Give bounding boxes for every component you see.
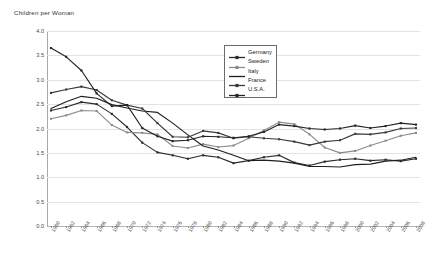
data-point-marker xyxy=(202,154,204,156)
chart-title: Children per Woman xyxy=(14,9,74,16)
data-point-marker xyxy=(80,86,82,88)
data-point-marker xyxy=(324,146,326,148)
data-point-marker xyxy=(172,154,174,156)
legend-label: Italy xyxy=(248,69,259,75)
legend-swatch-icon xyxy=(228,76,246,85)
data-point-marker xyxy=(217,132,219,134)
legend-item-germany[interactable]: Germany xyxy=(228,48,272,57)
data-point-marker xyxy=(308,133,310,135)
data-point-marker xyxy=(385,159,387,161)
data-point-marker xyxy=(172,136,174,138)
data-point-marker xyxy=(156,133,158,135)
legend-swatch-icon xyxy=(228,67,246,76)
data-point-marker xyxy=(278,154,280,156)
data-point-marker xyxy=(187,139,189,141)
data-point-marker xyxy=(141,127,143,129)
data-point-marker xyxy=(339,127,341,129)
data-point-marker xyxy=(324,141,326,143)
data-point-marker xyxy=(293,141,295,143)
data-point-marker xyxy=(308,144,310,146)
legend-item-sweden[interactable]: Sweden xyxy=(228,57,272,66)
data-point-marker xyxy=(385,140,387,142)
data-point-marker xyxy=(263,156,265,158)
data-point-marker xyxy=(50,109,52,111)
data-point-marker xyxy=(126,104,128,106)
data-point-marker xyxy=(385,131,387,133)
data-point-marker xyxy=(324,128,326,130)
data-point-marker xyxy=(50,47,52,49)
data-point-marker xyxy=(232,145,234,147)
data-point-marker xyxy=(172,140,174,142)
data-point-marker xyxy=(80,69,82,71)
data-point-marker xyxy=(96,103,98,105)
data-point-marker xyxy=(339,159,341,161)
data-point-marker xyxy=(400,127,402,129)
y-axis-tick-label: 0.5 xyxy=(4,199,44,205)
legend-item-france[interactable]: France xyxy=(228,76,272,85)
data-point-marker xyxy=(354,133,356,135)
data-point-marker xyxy=(278,124,280,126)
data-point-marker xyxy=(369,127,371,129)
data-point-marker xyxy=(111,105,113,107)
legend-label: Germany xyxy=(248,50,272,56)
legend-item-u-s-a[interactable]: U.S.A. xyxy=(228,86,272,95)
legend-label: U.S.A. xyxy=(248,87,265,93)
data-point-marker xyxy=(156,122,158,124)
data-point-marker xyxy=(80,101,82,103)
data-point-marker xyxy=(217,146,219,148)
data-point-marker xyxy=(156,135,158,137)
x-axis: 1960196219641966196819701972197419761978… xyxy=(47,226,420,271)
data-point-marker xyxy=(293,125,295,127)
legend-swatch-icon xyxy=(228,86,246,95)
data-point-marker xyxy=(80,109,82,111)
legend-swatch-icon xyxy=(228,48,246,57)
legend-label: France xyxy=(248,78,266,84)
data-point-marker xyxy=(339,139,341,141)
data-point-marker xyxy=(202,135,204,137)
data-point-marker xyxy=(96,89,98,91)
chart-legend: GermanySwedenItalyFranceU.S.A. xyxy=(224,45,277,98)
data-point-marker xyxy=(50,92,52,94)
data-point-marker xyxy=(156,151,158,153)
data-point-marker xyxy=(263,131,265,133)
data-point-marker xyxy=(217,156,219,158)
legend-item-italy[interactable]: Italy xyxy=(228,67,272,76)
series-line xyxy=(51,96,416,167)
y-axis-tick-label: 3.0 xyxy=(4,77,44,83)
data-point-marker xyxy=(369,160,371,162)
data-point-marker xyxy=(65,88,67,90)
data-point-marker xyxy=(415,132,417,134)
data-point-marker xyxy=(141,107,143,109)
y-axis-tick-label: 4.0 xyxy=(4,28,44,34)
data-point-marker xyxy=(415,124,417,126)
data-point-marker xyxy=(354,125,356,127)
legend-label: Sweden xyxy=(248,59,269,65)
series-italy xyxy=(51,96,416,167)
data-point-marker xyxy=(65,106,67,108)
y-axis-tick-label: 2.5 xyxy=(4,101,44,107)
data-point-marker xyxy=(187,136,189,138)
data-point-marker xyxy=(415,127,417,129)
y-axis-tick-label: 1.0 xyxy=(4,174,44,180)
data-point-marker xyxy=(96,110,98,112)
data-point-marker xyxy=(187,158,189,160)
data-point-marker xyxy=(354,150,356,152)
y-axis: 0.00.51.01.52.02.53.03.54.0 xyxy=(0,31,44,226)
data-point-marker xyxy=(400,122,402,124)
data-point-marker xyxy=(278,121,280,123)
y-axis-tick-label: 0.0 xyxy=(4,223,44,229)
data-point-marker xyxy=(65,56,67,58)
data-point-marker xyxy=(354,158,356,160)
data-point-marker xyxy=(126,126,128,128)
series-sweden xyxy=(50,109,417,154)
data-point-marker xyxy=(111,124,113,126)
data-point-marker xyxy=(415,158,417,160)
data-point-marker xyxy=(385,125,387,127)
y-axis-tick-label: 3.5 xyxy=(4,52,44,58)
chart-container: Children per Woman 0.00.51.01.52.02.53.0… xyxy=(0,0,431,271)
data-point-marker xyxy=(96,92,98,94)
data-point-marker xyxy=(65,114,67,116)
data-point-marker xyxy=(187,147,189,149)
y-axis-tick-label: 1.5 xyxy=(4,150,44,156)
data-point-marker xyxy=(172,145,174,147)
